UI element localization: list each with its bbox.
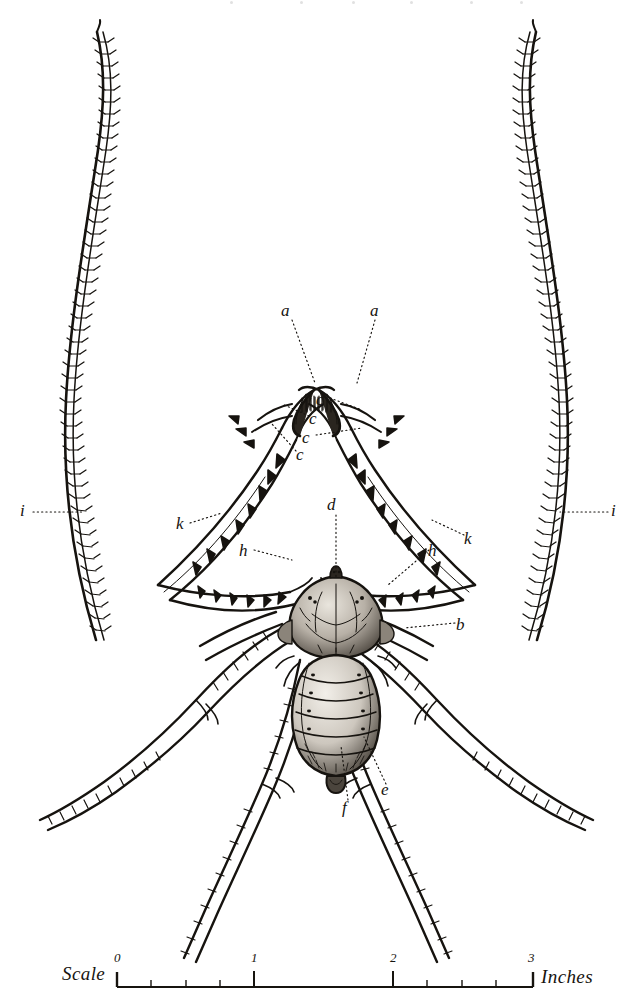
- pedipalp-left: [158, 387, 334, 610]
- part-label-k-right: k: [464, 530, 472, 547]
- part-label-k-left: k: [176, 515, 184, 532]
- scale-label: Scale: [62, 963, 105, 985]
- part-label-h-right: h: [428, 542, 437, 559]
- whip-spider-engraving: [0, 0, 633, 1002]
- walking-legs-left: [40, 612, 312, 962]
- leader-line-h-right: [388, 550, 429, 585]
- part-label-c-4: c: [296, 446, 304, 463]
- leader-line-a-right: [357, 320, 375, 383]
- antenniform-leg-right: [513, 20, 573, 640]
- leader-line-h-left: [254, 550, 292, 560]
- part-label-b: b: [456, 616, 465, 633]
- part-label-c-1: c: [316, 391, 324, 408]
- part-label-i-right: i: [611, 502, 616, 519]
- leader-line-a-left: [292, 320, 315, 383]
- part-label-f: f: [342, 799, 347, 816]
- part-label-h-left: h: [239, 542, 248, 559]
- scale-tick-number-3: 3: [528, 950, 535, 966]
- leader-line-b: [404, 623, 455, 628]
- part-label-c-3: c: [302, 429, 310, 446]
- pedipalp-right: [299, 387, 475, 610]
- antenniform-leg-left: [60, 20, 120, 640]
- scale-tick-number-0: 0: [114, 950, 121, 966]
- scale-bar: [117, 971, 533, 987]
- figure-plate: aaccccdhhkkiibef Scale Inches 0123: [0, 0, 633, 1002]
- inches-label: Inches: [541, 966, 593, 988]
- scale-tick-number-1: 1: [251, 950, 258, 966]
- part-label-a-right: a: [370, 302, 379, 319]
- part-label-e: e: [381, 781, 389, 798]
- part-label-a-left: a: [281, 302, 290, 319]
- leader-line-k-right: [432, 520, 464, 535]
- part-label-d: d: [327, 496, 336, 513]
- part-label-i-left: i: [20, 502, 25, 519]
- part-label-c-2: c: [309, 410, 317, 427]
- leader-line-k-left: [190, 513, 222, 523]
- scale-tick-number-2: 2: [390, 950, 397, 966]
